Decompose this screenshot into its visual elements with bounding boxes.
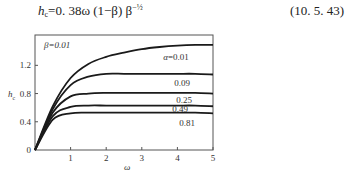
y-tick-label: 0.4 <box>20 117 32 127</box>
series-label: α=0.01 <box>163 52 189 62</box>
x-tick-label: 2 <box>104 153 109 163</box>
series-label: 0.81 <box>179 118 195 128</box>
series-label: 0.49 <box>172 104 188 114</box>
series-labels: α=0.010.090.250.490.81 <box>163 52 195 128</box>
y-tick-label: 1.2 <box>20 60 31 70</box>
series-label: 0.09 <box>174 78 190 88</box>
x-tick-label: 3 <box>140 153 145 163</box>
y-tick-label: 0 <box>27 145 32 155</box>
y-tick-label: 0.8 <box>20 89 32 99</box>
x-tick-label: 5 <box>211 153 216 163</box>
line-chart: 1234500.40.81.2 β=0.01 hc ω α=0.010.090.… <box>0 0 354 178</box>
x-tick-label: 1 <box>68 153 73 163</box>
beta-annotation: β=0.01 <box>43 40 70 50</box>
x-tick-label: 4 <box>175 153 180 163</box>
y-axis-label: hc <box>8 89 16 101</box>
x-axis-label: ω <box>124 162 130 172</box>
